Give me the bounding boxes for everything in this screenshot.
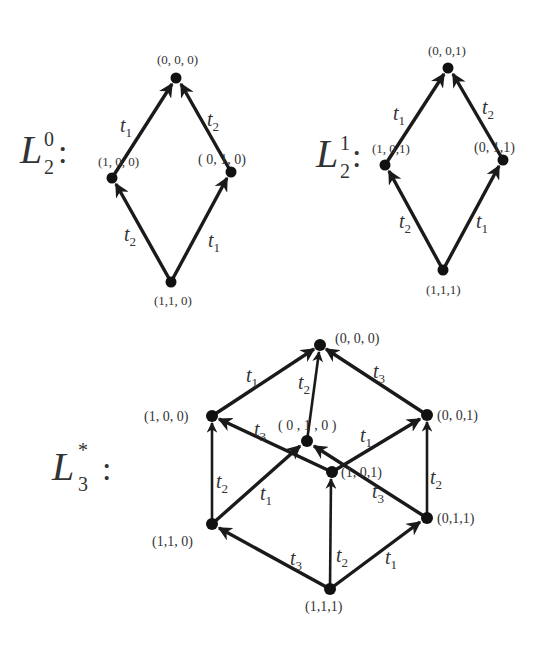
edge-label: t2 (430, 466, 442, 492)
node-101 (380, 160, 391, 171)
edge-label: t3 (372, 480, 384, 506)
node-label: (1,1, 0) (154, 293, 192, 308)
svg-text:0: 0 (44, 128, 54, 150)
edge-label: t1 (393, 102, 405, 128)
edge-label: t1 (476, 210, 488, 236)
svg-text::: : (58, 133, 67, 170)
node-100 (206, 410, 218, 422)
edge-001-000 (326, 349, 427, 415)
svg-text:*: * (78, 439, 88, 461)
node-label: (0, 0,1) (428, 43, 466, 58)
svg-text:L: L (51, 444, 74, 489)
node-111 (438, 265, 449, 276)
node-101 (326, 466, 338, 478)
node-label: (0, 1,1) (474, 140, 515, 156)
node-001 (421, 409, 433, 421)
node-110 (166, 277, 177, 288)
svg-text::: : (352, 137, 361, 174)
node-010 (301, 435, 313, 447)
diagram-L2-0: L 0 2 : t1 t2 t2 t1 (0, 0, 0) (1, 0, 0) … (19, 52, 246, 308)
edge-label: t1 (246, 364, 258, 390)
node-110 (206, 518, 218, 530)
node-label: ( 0 , 1 , 0 ) (278, 418, 337, 434)
node-label: (1,1,1) (426, 282, 461, 297)
node-010 (226, 167, 237, 178)
title-L2-1: L 1 2 : (315, 131, 361, 182)
svg-text::: : (102, 450, 111, 487)
node-label: (1, 0, 0) (144, 409, 189, 425)
edge-label: t2 (216, 470, 228, 496)
node-000 (314, 339, 326, 351)
node-100 (107, 173, 118, 184)
node-label: (1, 0, 0) (98, 154, 139, 169)
svg-text:3: 3 (78, 473, 88, 495)
svg-text:L: L (19, 127, 42, 172)
node-label: ( 0, 1, 0) (198, 152, 246, 168)
title-L2-0: L 0 2 : (19, 127, 67, 178)
node-label: (0, 0,1) (437, 408, 478, 424)
node-label: (1, 0,1) (372, 141, 410, 156)
edge-label: t2 (298, 371, 310, 397)
edge-label: t1 (385, 546, 397, 572)
edge-label: t2 (399, 210, 411, 236)
node-label: (1,1,1) (305, 599, 343, 615)
edge-111-101 (330, 479, 331, 589)
node-label: (1, 0,1) (341, 465, 382, 481)
node-label: (0,1,1) (437, 511, 475, 527)
edge-label: t2 (124, 223, 136, 249)
node-label: (0, 0, 0) (335, 331, 380, 347)
edge-label: t1 (260, 482, 272, 508)
edge-label: t3 (254, 418, 266, 444)
node-label: (0, 0, 0) (157, 52, 198, 67)
svg-text:1: 1 (340, 132, 350, 154)
svg-text:2: 2 (340, 160, 350, 182)
node-label: (1,1, 0) (152, 534, 193, 550)
edge-label: t1 (360, 424, 372, 450)
lattice-diagrams: L 0 2 : t1 t2 t2 t1 (0, 0, 0) (1, 0, 0) … (0, 0, 545, 650)
edge-label: t1 (208, 229, 220, 255)
diagram-L2-1: L 1 2 : t1 t2 t2 t1 (0, 0,1) (1, 0,1) (0… (315, 43, 515, 297)
svg-text:2: 2 (44, 156, 54, 178)
edge-110-010 (171, 178, 227, 282)
node-111 (324, 583, 336, 595)
title-L3-star: L * 3 : (51, 439, 111, 495)
edge-111-110 (219, 528, 330, 589)
node-011 (498, 155, 509, 166)
node-000 (171, 73, 182, 84)
node-001 (443, 63, 454, 74)
svg-text:L: L (315, 131, 338, 176)
edge-label: t1 (120, 114, 132, 140)
edge-label: t2 (336, 544, 348, 570)
edge-label: t2 (482, 96, 494, 122)
node-011 (421, 512, 433, 524)
edge-111-011 (443, 166, 499, 270)
edge-111-101 (389, 171, 443, 270)
diagram-L3-star: L * 3 : t1 t2 t3 t3 t2 t1 t3 t1 t2 t3 t2… (51, 331, 478, 615)
